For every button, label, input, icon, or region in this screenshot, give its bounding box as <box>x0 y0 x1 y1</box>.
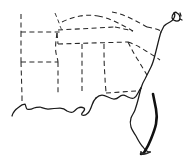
map-figure <box>0 0 189 167</box>
southeast-us-map-svg <box>0 0 189 167</box>
map-background <box>0 0 189 167</box>
